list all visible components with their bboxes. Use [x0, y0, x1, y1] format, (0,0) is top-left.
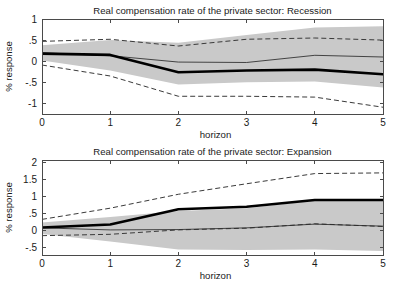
panel-title-expansion: Real compensation rate of the private se… — [93, 146, 331, 157]
panel-title-recession: Real compensation rate of the private se… — [93, 5, 331, 16]
chart-svg-recession: Real compensation rate of the private se… — [0, 0, 394, 141]
ytick-label-1-expansion: 0 — [31, 225, 37, 236]
xtick-label-0-recession: 0 — [39, 117, 45, 128]
xaxis-label-recession: horizon — [200, 129, 231, 140]
xtick-label-1-recession: 1 — [107, 117, 113, 128]
ytick-label-0-recession: -1 — [28, 98, 37, 109]
xtick-label-1-expansion: 1 — [107, 258, 113, 269]
xtick-label-0-expansion: 0 — [39, 258, 45, 269]
xtick-label-5-recession: 5 — [380, 117, 386, 128]
xtick-label-3-expansion: 3 — [244, 258, 250, 269]
ytick-label-5-expansion: 2 — [31, 157, 37, 168]
xtick-label-5-expansion: 5 — [380, 258, 386, 269]
chart-panel-expansion: Real compensation rate of the private se… — [0, 140, 394, 281]
ytick-label-1-recession: -.5 — [25, 77, 37, 88]
xtick-label-4-expansion: 4 — [312, 258, 318, 269]
chart-svg-expansion: Real compensation rate of the private se… — [0, 140, 394, 281]
xtick-label-4-recession: 4 — [312, 117, 318, 128]
xtick-label-3-recession: 3 — [244, 117, 250, 128]
xtick-label-2-expansion: 2 — [176, 258, 182, 269]
ytick-label-3-expansion: 1 — [31, 191, 37, 202]
yaxis-label-expansion: % response — [3, 182, 14, 233]
ytick-label-4-expansion: 1.5 — [23, 174, 37, 185]
xaxis-label-expansion: horizon — [200, 270, 231, 281]
yaxis-label-recession: % response — [3, 41, 14, 92]
confidence-band-recession — [42, 26, 383, 87]
ytick-label-4-recession: 1 — [31, 14, 37, 25]
ytick-label-2-expansion: .5 — [29, 208, 38, 219]
xtick-label-2-recession: 2 — [176, 117, 182, 128]
ytick-label-3-recession: .5 — [29, 35, 38, 46]
chart-panel-recession: Real compensation rate of the private se… — [0, 0, 394, 141]
ytick-label-2-recession: 0 — [31, 56, 37, 67]
ytick-label-0-expansion: -.5 — [25, 242, 37, 253]
figure-container: Real compensation rate of the private se… — [0, 0, 394, 281]
